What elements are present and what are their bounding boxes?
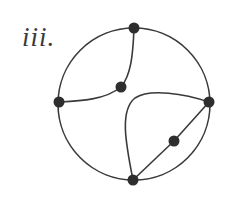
node-inner-lower bbox=[169, 136, 180, 147]
node-bottom bbox=[128, 175, 139, 186]
node-right bbox=[204, 97, 215, 108]
edge-bottom-to-inner-lower bbox=[133, 141, 174, 180]
node-left bbox=[54, 97, 65, 108]
node-inner-upper bbox=[116, 82, 127, 93]
node-top bbox=[129, 23, 140, 34]
graph-diagram bbox=[0, 0, 230, 204]
outer-circle bbox=[58, 28, 210, 180]
edge-bottom-to-right-curve bbox=[125, 93, 209, 180]
edge-inner-upper-to-left bbox=[59, 87, 121, 102]
edge-top-to-inner-upper bbox=[121, 28, 134, 87]
